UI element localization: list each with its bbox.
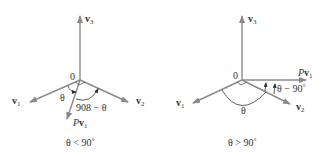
right-v3-label: v3 — [248, 13, 257, 26]
right-v2-label: v2 — [296, 101, 305, 114]
left-v3-label: v3 — [85, 13, 94, 26]
right-theta-label: θ — [241, 105, 246, 116]
left-complement-label: 908 − θ — [76, 102, 107, 113]
v2-axis — [80, 80, 128, 102]
theta-arc — [222, 90, 266, 106]
projection-diagram: 0 v3 v1 v2 Pv1 θ 908 − θ θ < 90˚ 0 v3 v1… — [0, 0, 323, 157]
left-pv1-label: Pv1 — [72, 117, 88, 130]
angle-arrow-inner — [265, 83, 266, 91]
right-origin-label: 0 — [233, 70, 238, 81]
left-caption: θ < 90˚ — [66, 137, 95, 148]
right-angle-mark — [237, 82, 247, 85]
theta-arc — [68, 86, 76, 92]
complement-arc — [76, 89, 98, 100]
left-diagram: 0 v3 v1 v2 Pv1 θ 908 − θ θ < 90˚ — [12, 13, 145, 148]
right-caption: θ > 90˚ — [228, 137, 257, 148]
v1-axis — [193, 80, 242, 103]
left-v1-label: v1 — [12, 95, 21, 108]
left-origin-label: 0 — [70, 71, 75, 82]
right-v1-label: v1 — [176, 97, 185, 110]
left-theta-label: θ — [60, 92, 65, 103]
right-angle-mark — [75, 82, 85, 85]
right-diagram: 0 v3 v1 v2 Pv1 θ θ − 90˚ θ > 90˚ — [176, 13, 313, 148]
angle-arrow-outer — [274, 84, 275, 94]
right-pv1-label: Pv1 — [297, 67, 313, 80]
left-v2-label: v2 — [136, 95, 145, 108]
right-angle-label: θ − 90˚ — [277, 83, 306, 94]
